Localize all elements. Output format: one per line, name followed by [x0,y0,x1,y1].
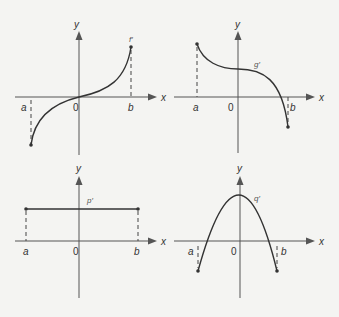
panel-p-prime: x y 0 a b p′ [15,163,167,298]
endpoint-a [29,143,33,147]
y-axis-label: y [73,19,80,30]
x-axis-label: x [318,236,325,247]
b-label: b [281,246,287,257]
endpoint-a [196,269,200,273]
a-label: a [188,246,194,257]
x-axis-arrow-icon [148,238,157,245]
y-axis-label: y [75,163,82,174]
x-axis-label: x [318,92,325,103]
endpoint-b [286,125,290,129]
panel-f-prime: x y 0 a b f′ [15,19,167,155]
x-axis-label: x [160,92,167,103]
function-label: p′ [86,196,93,205]
origin-label: 0 [73,246,79,257]
y-axis-arrow-icon [76,176,83,185]
x-axis-arrow-icon [306,238,315,245]
a-label: a [193,102,199,113]
function-label: f′ [129,35,133,44]
y-axis-arrow-icon [237,176,244,185]
y-axis-label: y [234,19,241,30]
y-axis-arrow-icon [235,31,242,40]
endpoint-b [129,45,133,49]
function-label: q′ [254,194,260,203]
endpoint-a [195,42,199,46]
b-label: b [134,246,140,257]
panel-g-prime: x y 0 a b g′ [174,19,325,153]
endpoint-b [136,207,140,211]
origin-label: 0 [73,102,79,113]
derivative-graphs-figure: x y 0 a b f′ x y 0 a b g′ x y 0 [0,0,339,317]
function-label: g′ [254,60,260,69]
endpoint-a [24,207,28,211]
y-axis-arrow-icon [76,31,83,40]
panel-q-prime: x y 0 a b q′ [174,163,325,298]
b-label: b [290,102,296,113]
endpoint-b [275,269,279,273]
g-prime-curve [197,44,288,127]
y-axis-label: y [236,163,243,174]
b-label: b [128,102,134,113]
f-prime-curve [31,47,131,145]
a-label: a [21,102,27,113]
origin-label: 0 [228,102,234,113]
q-prime-curve [198,195,277,271]
origin-label: 0 [231,246,237,257]
x-axis-arrow-icon [148,94,157,101]
a-label: a [23,246,29,257]
x-axis-arrow-icon [306,94,315,101]
x-axis-label: x [160,236,167,247]
